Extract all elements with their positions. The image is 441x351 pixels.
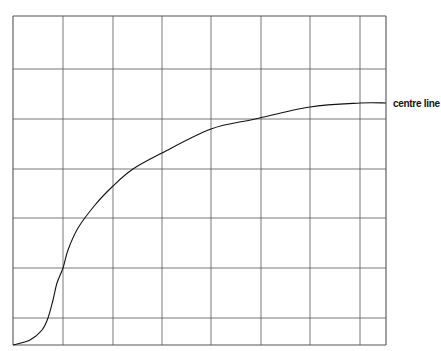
centre-line-diagram: centre line — [0, 0, 441, 351]
background — [0, 0, 441, 351]
centre-line-label: centre line — [393, 98, 440, 109]
